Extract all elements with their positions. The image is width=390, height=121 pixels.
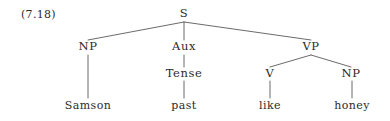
tree-node-aux: Aux — [172, 41, 196, 53]
figure-container: (7.18) SNPAuxVPTenseVNPSamsonpastlikehon… — [0, 0, 390, 121]
tree-leaf-past: past — [171, 100, 196, 111]
tree-edge-vp-np2 — [311, 55, 351, 67]
tree-leaf-samson: Samson — [65, 100, 111, 111]
tree-edge-s-vp — [184, 22, 311, 40]
tree-edge-vp-v — [270, 55, 311, 67]
tree-leaf-like: like — [259, 100, 281, 111]
tree-node-s: S — [180, 8, 188, 20]
tree-node-v: V — [266, 68, 275, 80]
tree-node-np2: NP — [341, 68, 360, 80]
tree-edge-s-np1 — [88, 22, 184, 40]
tree-node-np1: NP — [78, 41, 97, 53]
tree-leaf-honey: honey — [334, 100, 370, 111]
tree-node-vp: VP — [302, 41, 319, 53]
tree-node-tense: Tense — [166, 68, 203, 80]
